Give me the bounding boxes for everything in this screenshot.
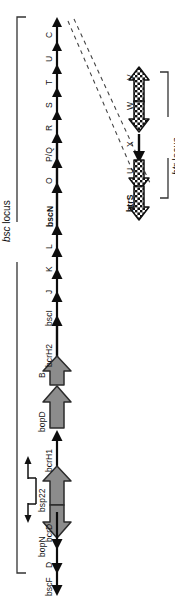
gene-label-J-label-v: J	[45, 290, 54, 294]
gene-label-bsp22-label-v: bsp22	[38, 488, 47, 512]
gene-label-L-label-v: L	[45, 244, 54, 249]
gene-label-U-bsc-v: U	[45, 56, 54, 62]
gene-arrow-X-btr	[133, 134, 145, 163]
gene-label-btrS-v: btrS	[126, 195, 135, 212]
gene-label-bcrH1-label-v: bcrH1	[45, 449, 54, 472]
gene-arrow-V-btr	[129, 67, 149, 102]
gene-arrow-bopD-v	[43, 386, 71, 428]
gene-label-D-label-v: D	[45, 562, 54, 568]
gene-label-V-btr-v: V	[126, 74, 135, 80]
gene-label-bscF-label-v: bscF	[45, 577, 54, 596]
gene-label-O-label-v: O	[45, 177, 54, 184]
gene-label-R-v: R	[45, 125, 54, 131]
locus-diagram: bsc locus bscF D bcrD	[0, 0, 175, 601]
gene-label-bscN-label-v: bscN	[46, 206, 55, 227]
gene-label-bcrH2-label-v: bcrH2	[45, 344, 54, 367]
gene-label-W-btr-v: W	[126, 102, 135, 110]
gene-label-X-btr-v: X	[126, 141, 135, 147]
gene-label-U-btr-v: U	[126, 168, 135, 174]
gene-label-PQ-label-v: P/Q	[45, 147, 54, 162]
gene-label-bscI-label-v: bscI	[45, 310, 54, 326]
gene-label-B-label-v: B	[38, 372, 47, 378]
vertical-layout-layer: bsc locus btr locus	[0, 0, 175, 601]
gene-label-S-v: S	[45, 102, 54, 108]
gene-label-T-v: T	[45, 80, 54, 85]
gene-label-bopD-label-v: bopD	[38, 411, 47, 432]
gene-label-C-v: C	[45, 32, 54, 38]
gene-label-bcrD-label-v: bcrD	[45, 524, 54, 542]
gene-label-K-label-v: K	[45, 266, 54, 272]
bidirectional-promoter-icon-v	[25, 456, 37, 523]
bsc-gene-track	[0, 0, 175, 601]
